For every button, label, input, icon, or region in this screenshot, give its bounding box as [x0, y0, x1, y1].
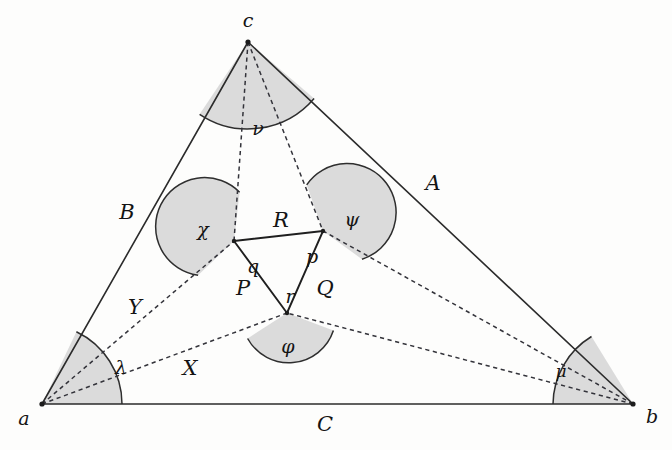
vertex-label-c: c — [243, 11, 254, 30]
cevian-label-Y: Y — [128, 297, 142, 318]
vertex-dot-q — [232, 239, 236, 243]
vertex-dot-p — [321, 229, 325, 233]
side-label-C: C — [317, 414, 333, 435]
side-label-A: A — [425, 173, 440, 194]
inner-side-label-P: P — [236, 278, 250, 299]
triangle-diagram-canvas — [0, 0, 672, 450]
vertex-dot-r — [285, 311, 289, 315]
geometry-figure: c a b A B C R P Q q p r Y X ν χ ψ φ λ μ — [0, 0, 672, 450]
vertex-label-a: a — [18, 409, 29, 428]
angle-label-psi: ψ — [345, 210, 360, 229]
vertex-dot-a — [39, 401, 44, 406]
side-label-B: B — [119, 202, 134, 223]
vertex-dot-b — [630, 401, 635, 406]
vertex-label-b: b — [646, 407, 658, 426]
angle-label-mu: μ — [555, 363, 566, 380]
angle-label-lambda: λ — [115, 358, 127, 377]
angle-label-chi: χ — [197, 220, 209, 239]
inner-side-label-R: R — [273, 210, 289, 231]
cevian-label-X: X — [183, 358, 198, 379]
angle-label-nu: ν — [252, 119, 264, 138]
inner-side-R — [234, 231, 323, 241]
inner-vertex-label-p: p — [306, 247, 318, 266]
angle-label-phi: φ — [281, 337, 294, 356]
inner-vertex-label-r: r — [285, 287, 294, 306]
inner-vertex-label-q: q — [247, 257, 259, 276]
inner-side-label-Q: Q — [316, 278, 333, 299]
vertex-dot-c — [245, 39, 250, 44]
